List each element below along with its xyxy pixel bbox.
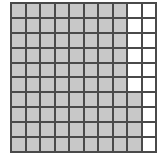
- empty-cell: [142, 137, 157, 152]
- shaded-cell: [26, 33, 41, 48]
- shaded-cell: [84, 33, 99, 48]
- shaded-cell: [113, 77, 128, 92]
- empty-cell: [142, 107, 157, 122]
- shaded-cell: [40, 77, 55, 92]
- shaded-cell: [55, 77, 70, 92]
- shaded-cell: [69, 18, 84, 33]
- shaded-cell: [113, 122, 128, 137]
- shaded-cell: [55, 33, 70, 48]
- shaded-cell: [40, 107, 55, 122]
- shaded-cell: [40, 33, 55, 48]
- shaded-cell: [127, 92, 142, 107]
- shaded-cell: [26, 48, 41, 63]
- shaded-cell: [98, 122, 113, 137]
- empty-cell: [142, 18, 157, 33]
- shaded-cell: [84, 137, 99, 152]
- shaded-cell: [127, 107, 142, 122]
- empty-cell: [127, 33, 142, 48]
- shaded-cell: [26, 137, 41, 152]
- empty-cell: [142, 48, 157, 63]
- shaded-cell: [11, 107, 26, 122]
- shaded-cell: [113, 107, 128, 122]
- shaded-cell: [11, 48, 26, 63]
- shaded-cell: [69, 122, 84, 137]
- shaded-cell: [113, 137, 128, 152]
- shaded-cell: [84, 18, 99, 33]
- shaded-cell: [113, 33, 128, 48]
- shaded-cell: [26, 18, 41, 33]
- empty-cell: [127, 48, 142, 63]
- shaded-cell: [127, 122, 142, 137]
- shaded-cell: [11, 18, 26, 33]
- shaded-cell: [40, 18, 55, 33]
- shaded-cell: [84, 122, 99, 137]
- shaded-cell: [69, 137, 84, 152]
- shaded-cell: [98, 63, 113, 78]
- shaded-cell: [40, 48, 55, 63]
- shaded-cell: [26, 63, 41, 78]
- shaded-cell: [98, 18, 113, 33]
- shaded-cell: [40, 63, 55, 78]
- shaded-cell: [113, 92, 128, 107]
- shaded-cell: [55, 122, 70, 137]
- shaded-cell: [69, 3, 84, 18]
- shaded-cell: [26, 92, 41, 107]
- shaded-cell: [69, 107, 84, 122]
- empty-cell: [142, 63, 157, 78]
- shaded-cell: [26, 77, 41, 92]
- shaded-cell: [98, 33, 113, 48]
- shaded-cell: [84, 63, 99, 78]
- shaded-cell: [26, 3, 41, 18]
- shaded-cell: [69, 48, 84, 63]
- shaded-cell: [113, 48, 128, 63]
- empty-cell: [142, 3, 157, 18]
- shaded-cell: [127, 137, 142, 152]
- empty-cell: [142, 77, 157, 92]
- shaded-cell: [55, 48, 70, 63]
- shaded-cell: [11, 33, 26, 48]
- shaded-cell: [113, 3, 128, 18]
- shaded-cell: [98, 137, 113, 152]
- shaded-cell: [11, 92, 26, 107]
- empty-cell: [127, 3, 142, 18]
- shaded-cell: [40, 92, 55, 107]
- empty-cell: [142, 122, 157, 137]
- empty-cell: [127, 18, 142, 33]
- shaded-cell: [84, 48, 99, 63]
- empty-cell: [127, 63, 142, 78]
- hundred-grid: [10, 2, 157, 153]
- shaded-cell: [55, 137, 70, 152]
- shaded-cell: [11, 77, 26, 92]
- empty-cell: [142, 33, 157, 48]
- shaded-cell: [84, 92, 99, 107]
- shaded-cell: [98, 92, 113, 107]
- shaded-cell: [84, 107, 99, 122]
- shaded-cell: [98, 77, 113, 92]
- shaded-cell: [26, 107, 41, 122]
- shaded-cell: [40, 122, 55, 137]
- shaded-cell: [84, 77, 99, 92]
- shaded-cell: [40, 3, 55, 18]
- shaded-cell: [11, 122, 26, 137]
- shaded-cell: [113, 63, 128, 78]
- shaded-cell: [98, 48, 113, 63]
- shaded-cell: [55, 63, 70, 78]
- empty-cell: [127, 77, 142, 92]
- shaded-cell: [11, 63, 26, 78]
- shaded-cell: [113, 18, 128, 33]
- shaded-cell: [11, 3, 26, 18]
- shaded-cell: [84, 3, 99, 18]
- empty-cell: [142, 92, 157, 107]
- shaded-cell: [98, 3, 113, 18]
- shaded-cell: [55, 107, 70, 122]
- shaded-cell: [69, 77, 84, 92]
- shaded-cell: [69, 33, 84, 48]
- shaded-cell: [69, 63, 84, 78]
- shaded-cell: [55, 92, 70, 107]
- shaded-cell: [40, 137, 55, 152]
- shaded-cell: [98, 107, 113, 122]
- shaded-cell: [55, 3, 70, 18]
- shaded-cell: [11, 137, 26, 152]
- shaded-cell: [26, 122, 41, 137]
- shaded-cell: [55, 18, 70, 33]
